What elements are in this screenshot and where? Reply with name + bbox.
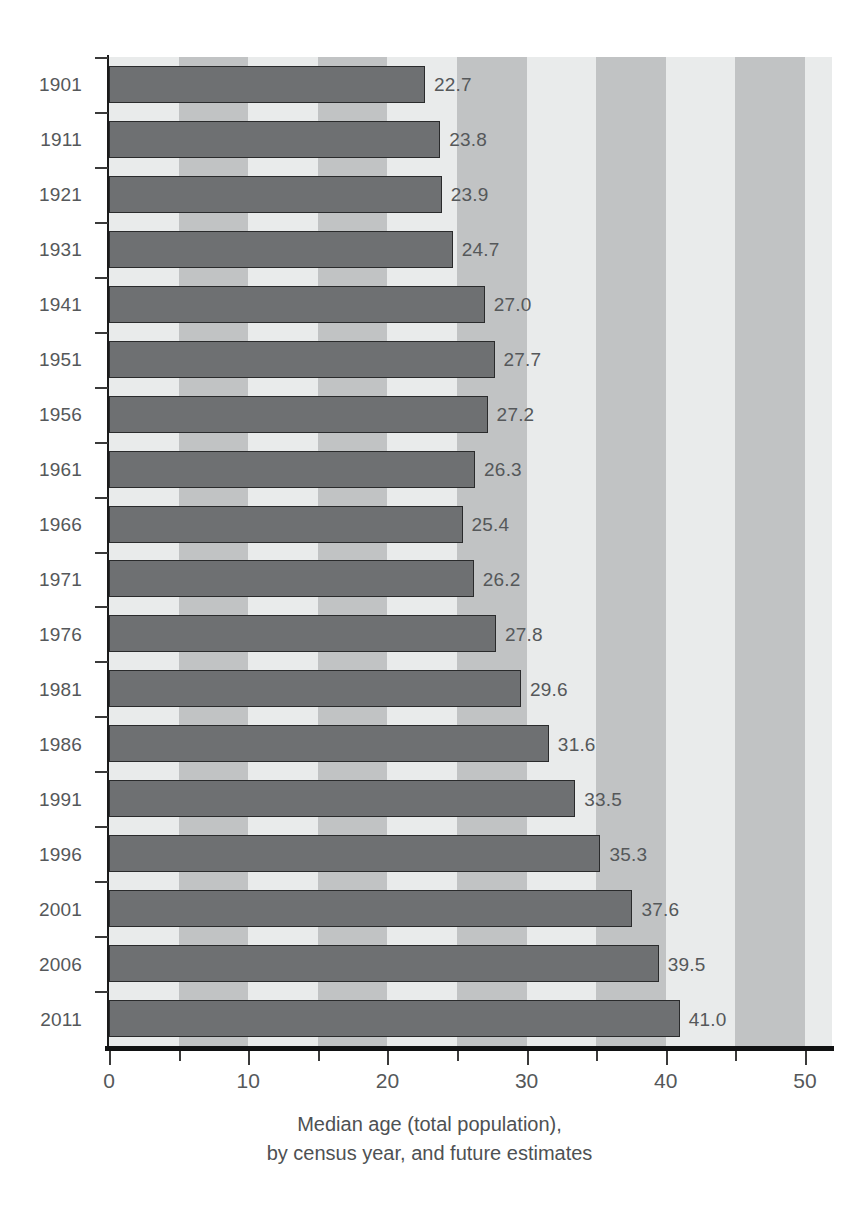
y-axis-tick-label: 1981 bbox=[0, 680, 95, 699]
y-axis-tick-label: 1956 bbox=[0, 405, 95, 424]
x-axis-minor-tick bbox=[179, 1051, 181, 1061]
y-axis-tick bbox=[95, 606, 108, 608]
y-axis-tick bbox=[95, 57, 108, 59]
bar-value-label: 24.7 bbox=[462, 240, 500, 259]
bar-value-label: 27.8 bbox=[505, 625, 543, 644]
bar-value-label: 33.5 bbox=[584, 790, 622, 809]
bar-value-label: 27.0 bbox=[494, 295, 532, 314]
bar-value-label: 27.2 bbox=[497, 405, 535, 424]
x-axis-tick-label: 50 bbox=[793, 1070, 816, 1091]
x-axis-tick bbox=[805, 1051, 807, 1065]
bar bbox=[109, 231, 453, 268]
y-axis-tick-label: 1966 bbox=[0, 515, 95, 534]
bar bbox=[109, 725, 549, 762]
caption-line-1: Median age (total population), bbox=[0, 1110, 859, 1139]
y-axis-tick bbox=[95, 222, 108, 224]
x-axis-tick-label: 0 bbox=[103, 1070, 115, 1091]
bar-value-label: 37.6 bbox=[641, 900, 679, 919]
bar bbox=[109, 1000, 680, 1037]
bar-value-label: 23.9 bbox=[451, 185, 489, 204]
bar-value-label: 23.8 bbox=[449, 130, 487, 149]
y-axis-tick bbox=[95, 771, 108, 773]
bar-value-label: 31.6 bbox=[558, 735, 596, 754]
y-axis-tick-label: 1921 bbox=[0, 185, 95, 204]
y-axis-tick bbox=[95, 442, 108, 444]
x-axis-line bbox=[105, 1046, 834, 1051]
y-axis-tick bbox=[95, 826, 108, 828]
bar bbox=[109, 835, 600, 872]
y-axis-tick bbox=[95, 552, 108, 554]
bar bbox=[109, 560, 474, 597]
bar bbox=[109, 451, 475, 488]
y-axis-tick bbox=[95, 991, 108, 993]
y-axis-tick-label: 1931 bbox=[0, 240, 95, 259]
x-axis-tick bbox=[387, 1051, 389, 1065]
x-axis-tick-label: 40 bbox=[654, 1070, 677, 1091]
y-axis-tick bbox=[95, 112, 108, 114]
y-axis-tick bbox=[95, 716, 108, 718]
background-band bbox=[805, 57, 832, 1046]
x-axis-minor-tick bbox=[318, 1051, 320, 1061]
x-axis-tick bbox=[109, 1051, 111, 1065]
y-axis-tick bbox=[95, 881, 108, 883]
bar-value-label: 26.2 bbox=[483, 570, 521, 589]
bar bbox=[109, 670, 521, 707]
bar bbox=[109, 506, 463, 543]
y-axis-tick bbox=[95, 332, 108, 334]
bar-value-label: 29.6 bbox=[530, 680, 568, 699]
y-axis-tick-label: 2006 bbox=[0, 955, 95, 974]
x-axis-minor-tick bbox=[735, 1051, 737, 1061]
y-axis-tick bbox=[95, 936, 108, 938]
chart-caption: Median age (total population), by census… bbox=[0, 1110, 859, 1168]
bar bbox=[109, 945, 659, 982]
y-axis-tick bbox=[95, 497, 108, 499]
x-axis-tick-label: 20 bbox=[376, 1070, 399, 1091]
bar-value-label: 35.3 bbox=[609, 845, 647, 864]
background-band bbox=[666, 57, 736, 1046]
x-axis-tick bbox=[248, 1051, 250, 1065]
y-axis-tick-label: 1951 bbox=[0, 350, 95, 369]
y-axis-tick-label: 1996 bbox=[0, 845, 95, 864]
bar bbox=[109, 286, 485, 323]
bar bbox=[109, 341, 495, 378]
bar bbox=[109, 66, 425, 103]
y-axis-tick bbox=[95, 277, 108, 279]
y-axis-tick bbox=[95, 661, 108, 663]
y-axis-tick-label: 1961 bbox=[0, 460, 95, 479]
y-axis-tick-label: 1901 bbox=[0, 75, 95, 94]
y-axis-tick-label: 1986 bbox=[0, 735, 95, 754]
x-axis-tick-label: 30 bbox=[515, 1070, 538, 1091]
bar bbox=[109, 121, 440, 158]
x-axis-tick bbox=[666, 1051, 668, 1065]
y-axis-tick-label: 1991 bbox=[0, 790, 95, 809]
y-axis-tick bbox=[95, 387, 108, 389]
caption-line-2: by census year, and future estimates bbox=[0, 1139, 859, 1168]
x-axis-tick-label: 10 bbox=[237, 1070, 260, 1091]
y-axis-tick bbox=[95, 167, 108, 169]
background-band bbox=[735, 57, 805, 1046]
x-axis-minor-tick bbox=[596, 1051, 598, 1061]
bar-value-label: 27.7 bbox=[504, 350, 542, 369]
bar bbox=[109, 615, 496, 652]
bar bbox=[109, 396, 488, 433]
bar bbox=[109, 890, 632, 927]
bar-value-label: 39.5 bbox=[668, 955, 706, 974]
bar-value-label: 25.4 bbox=[472, 515, 510, 534]
y-axis-tick-label: 1976 bbox=[0, 625, 95, 644]
bar bbox=[109, 780, 575, 817]
y-axis-tick-label: 2011 bbox=[0, 1010, 95, 1029]
y-axis-tick-label: 1941 bbox=[0, 295, 95, 314]
x-axis-minor-tick bbox=[457, 1051, 459, 1061]
y-axis-tick-label: 1911 bbox=[0, 130, 95, 149]
bar bbox=[109, 176, 442, 213]
bar-value-label: 41.0 bbox=[689, 1010, 727, 1029]
x-axis-tick bbox=[527, 1051, 529, 1065]
y-axis-tick-label: 1971 bbox=[0, 570, 95, 589]
plot-area bbox=[109, 57, 832, 1046]
bar-value-label: 22.7 bbox=[434, 75, 472, 94]
bar-value-label: 26.3 bbox=[484, 460, 522, 479]
chart-figure: 1901191119211931194119511956196119661971… bbox=[0, 0, 859, 1207]
y-axis-tick-label: 2001 bbox=[0, 900, 95, 919]
